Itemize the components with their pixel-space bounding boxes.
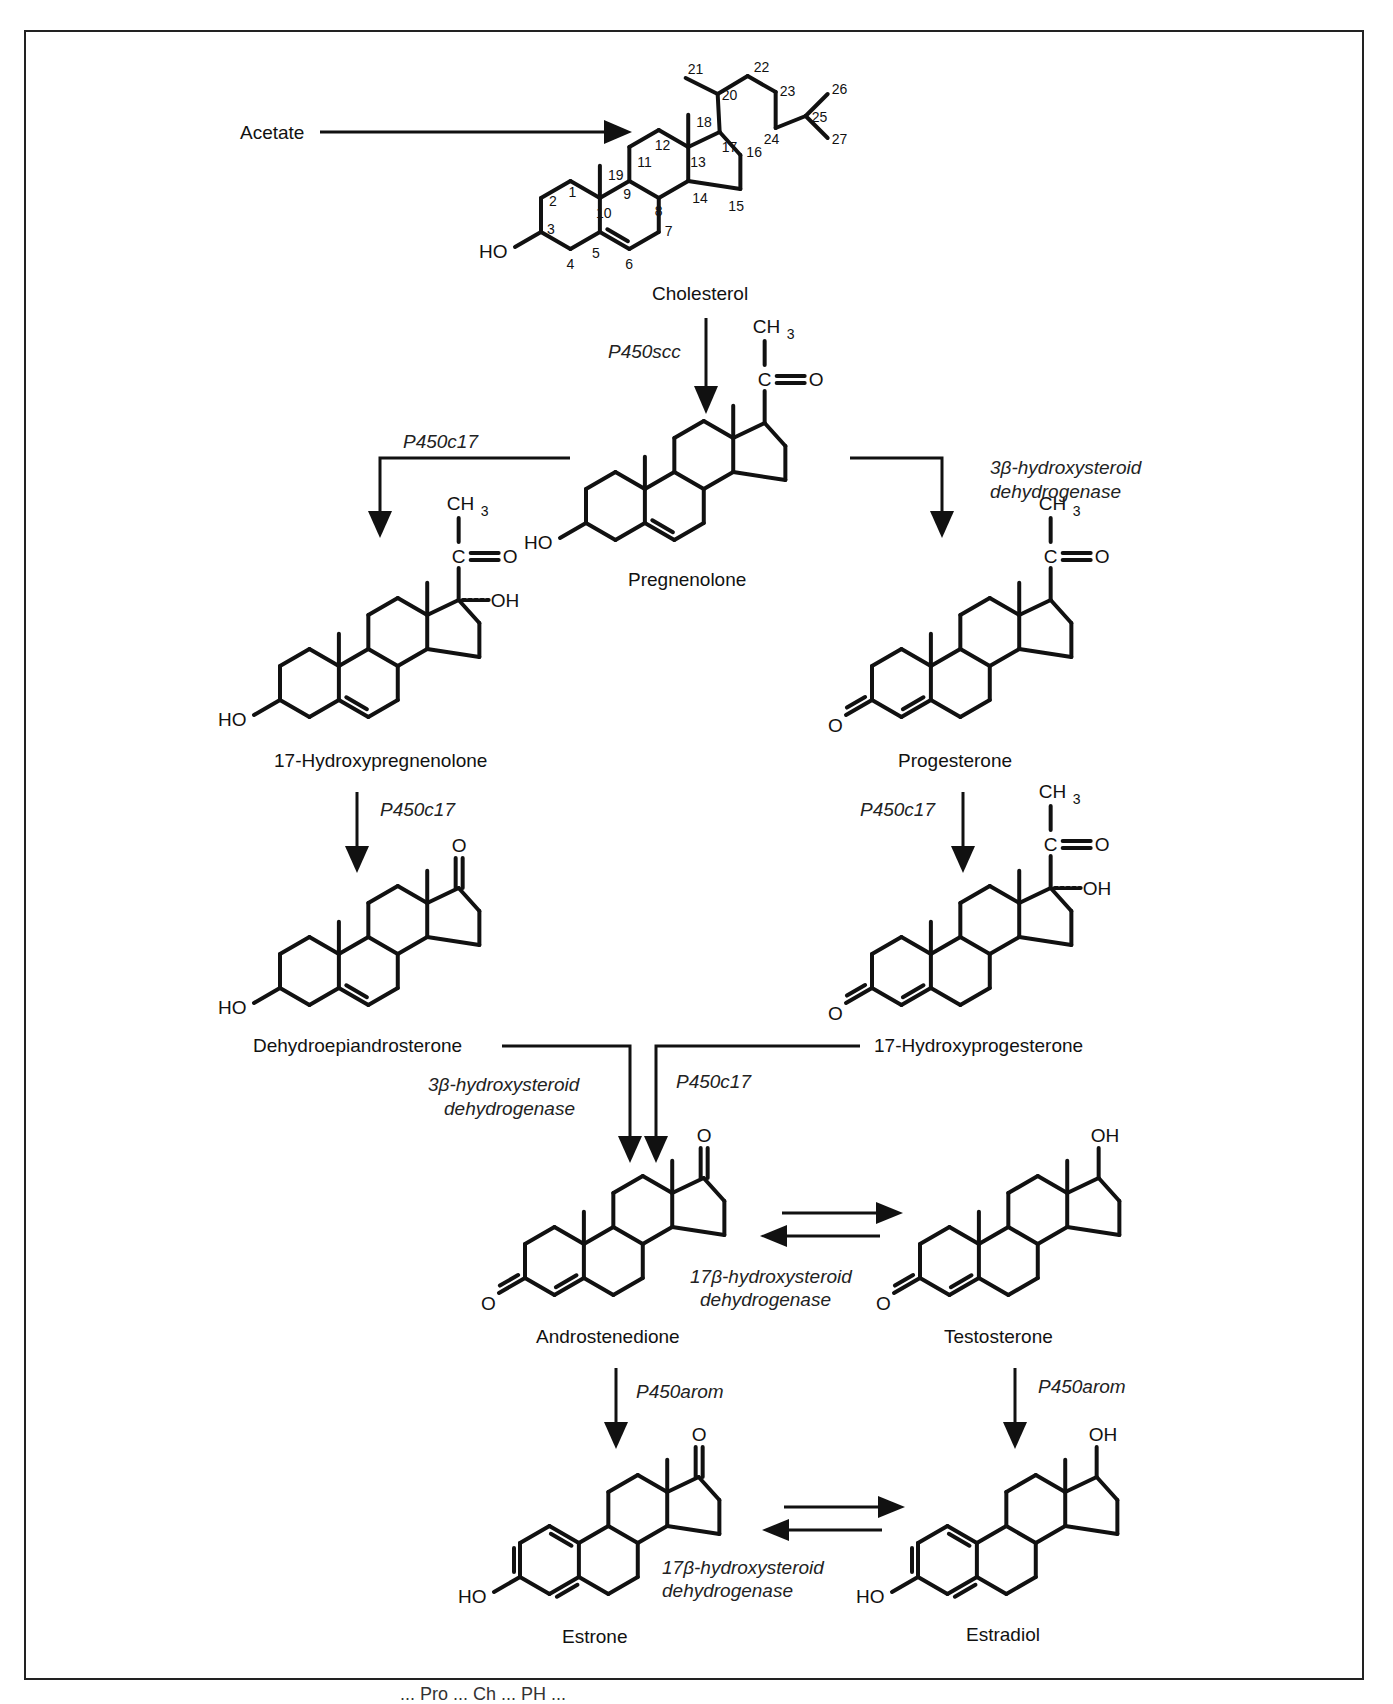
compound-label-estrone: Estrone <box>562 1626 627 1647</box>
svg-text:O: O <box>1095 546 1110 567</box>
structure-progesterone: OCCH3O <box>828 493 1109 736</box>
svg-text:5: 5 <box>592 245 600 261</box>
svg-text:26: 26 <box>832 81 848 97</box>
svg-text:C: C <box>452 546 466 567</box>
arrowhead-icon <box>618 1136 642 1163</box>
svg-text:18: 18 <box>696 114 712 130</box>
svg-text:HO: HO <box>458 1586 487 1607</box>
svg-text:O: O <box>876 1293 891 1314</box>
svg-text:C: C <box>1044 546 1058 567</box>
svg-text:11: 11 <box>637 154 652 170</box>
enzyme-label-3bhsd-a-line2: dehydrogenase <box>990 481 1121 502</box>
structure-estradiol: HOOH <box>856 1424 1117 1607</box>
svg-text:10: 10 <box>596 205 612 221</box>
svg-text:3: 3 <box>547 221 555 237</box>
compound-label-pregnenolone: Pregnenolone <box>628 569 746 590</box>
compound-label-17-hydroxypregnenolone: 17-Hydroxypregnenolone <box>274 750 487 771</box>
enzyme-label-3bhsd-b-line1: 3β-hydroxysteroid <box>428 1074 581 1095</box>
enzyme-label-17bhsd-b-line2: dehydrogenase <box>662 1580 793 1601</box>
svg-text:O: O <box>692 1424 707 1445</box>
svg-text:CH: CH <box>447 493 474 514</box>
svg-text:1: 1 <box>568 184 576 200</box>
arrowhead-icon <box>762 1519 789 1541</box>
enzyme-label-3bhsd-b-line2: dehydrogenase <box>444 1098 575 1119</box>
compound-label-estradiol: Estradiol <box>966 1624 1040 1645</box>
compound-label-testosterone: Testosterone <box>944 1326 1053 1347</box>
compound-label-dhea: Dehydroepiandrosterone <box>253 1035 462 1056</box>
svg-text:3: 3 <box>787 326 795 342</box>
svg-text:2: 2 <box>549 193 557 209</box>
svg-text:HO: HO <box>479 241 508 262</box>
arrowhead-icon <box>644 1136 668 1163</box>
svg-text:HO: HO <box>524 532 553 553</box>
svg-text:O: O <box>828 715 843 736</box>
svg-text:23: 23 <box>780 83 796 99</box>
svg-text:C: C <box>1044 834 1058 855</box>
arrowhead-icon <box>604 120 632 144</box>
svg-text:3: 3 <box>481 503 489 519</box>
svg-text:25: 25 <box>812 109 828 125</box>
structure-testosterone: OOH <box>876 1125 1119 1314</box>
svg-text:HO: HO <box>218 709 247 730</box>
enzyme-label-p450scc: P450scc <box>608 341 681 362</box>
svg-text:22: 22 <box>754 59 770 75</box>
svg-text:OH: OH <box>491 590 520 611</box>
svg-text:OH: OH <box>1091 1125 1120 1146</box>
svg-text:HO: HO <box>856 1586 885 1607</box>
arrowhead-icon <box>694 386 718 414</box>
svg-text:CH: CH <box>1039 781 1066 802</box>
arrowhead-icon <box>368 511 392 538</box>
arrow-pregnenolone-to-progesterone <box>850 458 942 515</box>
svg-text:O: O <box>503 546 518 567</box>
arrowhead-icon <box>951 846 975 873</box>
svg-text:4: 4 <box>566 256 574 272</box>
svg-text:21: 21 <box>688 61 704 77</box>
arrowhead-icon <box>604 1422 628 1449</box>
compound-label-progesterone: Progesterone <box>898 750 1012 771</box>
svg-text:3: 3 <box>1073 503 1081 519</box>
svg-text:20: 20 <box>722 87 738 103</box>
compound-label-cholesterol: Cholesterol <box>652 283 748 304</box>
svg-text:HO: HO <box>218 997 247 1018</box>
compound-label-androstenedione: Androstenedione <box>536 1326 680 1347</box>
arrowhead-icon <box>1003 1422 1027 1449</box>
structure-dhea: HOO <box>218 835 479 1018</box>
svg-text:15: 15 <box>728 198 744 214</box>
svg-text:CH: CH <box>753 316 780 337</box>
enzyme-label-17bhsd-a-line2: dehydrogenase <box>700 1289 831 1310</box>
arrow-pregnenolone-to-17-hydroxypregnenolone <box>380 458 570 515</box>
svg-text:O: O <box>1095 834 1110 855</box>
svg-text:27: 27 <box>832 131 848 147</box>
arrow-17-hydroxyprogesterone-to-androstenedione <box>656 1046 860 1140</box>
enzyme-label-17bhsd-a-line1: 17β-hydroxysteroid <box>690 1266 853 1287</box>
svg-text:16: 16 <box>746 144 762 160</box>
structure-androstenedione: OO <box>481 1125 724 1314</box>
svg-text:O: O <box>809 369 824 390</box>
arrowhead-icon <box>930 511 954 538</box>
enzyme-label-17bhsd-b-line1: 17β-hydroxysteroid <box>662 1557 825 1578</box>
svg-text:13: 13 <box>690 154 706 170</box>
svg-text:C: C <box>758 369 772 390</box>
arrowhead-icon <box>345 846 369 873</box>
svg-text:9: 9 <box>623 186 631 202</box>
svg-text:O: O <box>452 835 467 856</box>
enzyme-label-p450c17-d: P450c17 <box>676 1071 752 1092</box>
arrowhead-icon <box>760 1225 787 1247</box>
svg-text:3: 3 <box>1073 791 1081 807</box>
enzyme-label-p450c17-b: P450c17 <box>380 799 456 820</box>
figure-footer-partial: ... Pro ... Ch ... PH ... <box>400 1684 566 1704</box>
svg-text:OH: OH <box>1089 1424 1118 1445</box>
enzyme-label-p450arom-a: P450arom <box>636 1381 724 1402</box>
svg-text:14: 14 <box>692 190 708 206</box>
svg-text:O: O <box>828 1003 843 1024</box>
compound-label-acetate: Acetate <box>240 122 304 143</box>
svg-text:19: 19 <box>608 167 624 183</box>
svg-text:8: 8 <box>655 203 663 219</box>
svg-text:12: 12 <box>655 137 671 153</box>
structure-cholesterol: HO12345678910111213141516171819202122232… <box>479 59 847 272</box>
enzyme-label-p450arom-b: P450arom <box>1038 1376 1126 1397</box>
arrowhead-icon <box>876 1202 903 1224</box>
svg-text:17: 17 <box>722 139 738 155</box>
svg-text:O: O <box>697 1125 712 1146</box>
